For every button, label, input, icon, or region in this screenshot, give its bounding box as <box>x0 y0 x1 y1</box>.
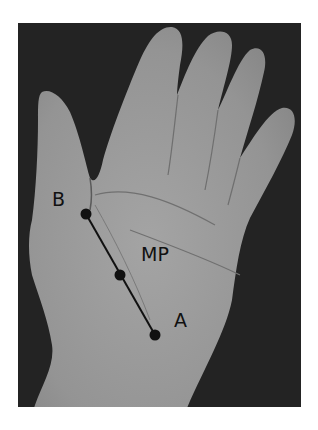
label-a: A <box>174 311 187 330</box>
midpoint-marker <box>115 270 126 281</box>
point-b-marker <box>81 209 92 220</box>
hand-illustration <box>0 0 318 430</box>
label-b: B <box>52 190 65 209</box>
hand-shape <box>29 27 295 420</box>
point-a-marker <box>150 330 161 341</box>
label-midpoint: MP <box>141 245 169 264</box>
